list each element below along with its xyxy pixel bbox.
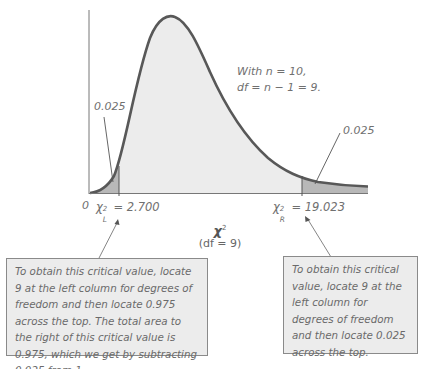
subscript: R — [280, 215, 285, 224]
superscript: 2 — [280, 205, 284, 213]
left-tail-label: 0.025 — [94, 100, 126, 113]
right-critical-value: = 19.023 — [291, 200, 345, 214]
right-tail-pointer — [315, 133, 340, 184]
df-annotation-line1: With n = 10, — [237, 64, 321, 80]
x-axis-superscript: 2 — [222, 224, 226, 232]
chi-symbol: χ — [273, 200, 280, 214]
left-note-box: To obtain this critical value, locate 9 … — [6, 258, 208, 356]
superscript: 2 — [103, 205, 107, 213]
right-note-arrow — [307, 218, 331, 257]
left-critical-label: χ2L = 2.700 — [96, 200, 160, 214]
left-tail-pointer — [104, 117, 113, 182]
left-critical-value: = 2.700 — [113, 200, 159, 214]
right-note-box: To obtain this critical value, locate 9 … — [283, 256, 418, 354]
right-note-arrowhead — [305, 216, 311, 222]
df-annotation-line2: df = n − 1 = 9. — [237, 80, 321, 96]
left-note-arrowhead — [115, 219, 120, 225]
df-annotation: With n = 10, df = n − 1 = 9. — [237, 64, 321, 96]
x-axis-df-label: (df = 9) — [190, 238, 250, 249]
left-note-arrow — [98, 221, 118, 260]
x-axis-symbol: χ — [214, 223, 222, 238]
left-tail-area — [90, 166, 119, 193]
right-critical-label: χ2R = 19.023 — [273, 200, 345, 214]
x-axis-label: χ2 (df = 9) — [190, 223, 250, 249]
origin-label: 0 — [82, 199, 89, 212]
chi-symbol: χ — [96, 200, 103, 214]
right-tail-label: 0.025 — [343, 124, 375, 137]
subscript: L — [103, 215, 107, 224]
